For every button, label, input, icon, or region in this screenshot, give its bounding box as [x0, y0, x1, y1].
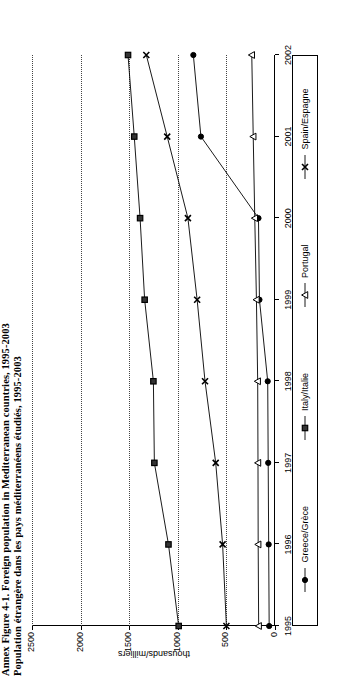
- figure-title-line-2: Population étrangère dans les pays médit…: [12, 0, 24, 676]
- figure-page: Annex Figure 4-1. Foreign population in …: [0, 0, 344, 678]
- x-tick: [275, 543, 279, 544]
- x-tick: [275, 380, 279, 381]
- legend-entry-4[interactable]: Spain/Espagne: [299, 89, 311, 180]
- data-point: [143, 52, 149, 58]
- legend-entry-2[interactable]: Italy/Italie: [299, 373, 311, 441]
- data-series-layer: [32, 55, 275, 626]
- data-point: [142, 297, 147, 302]
- legend-marker-icon: [299, 567, 311, 593]
- series-3: [248, 52, 261, 630]
- x-tick: [275, 136, 279, 137]
- data-point: [266, 460, 271, 465]
- data-point: [176, 623, 181, 628]
- x-tick: [275, 462, 279, 463]
- x-tick: [275, 54, 279, 55]
- figure-title: Annex Figure 4-1. Foreign population in …: [0, 0, 24, 678]
- figure-canvas: Annex Figure 4-1. Foreign population in …: [0, 0, 344, 678]
- plot-area: 05001000150020002500 1995199619971998199…: [32, 55, 275, 626]
- legend-label: Italy/Italie: [300, 373, 310, 411]
- series-line: [146, 55, 226, 626]
- data-point: [191, 52, 196, 57]
- y-tick: [129, 626, 130, 630]
- legend-entry-3[interactable]: Portugal: [299, 245, 311, 309]
- legend-label: Greece/Grèce: [300, 506, 310, 563]
- data-point: [265, 379, 270, 384]
- rotated-figure-wrapper: Annex Figure 4-1. Foreign population in …: [0, 0, 344, 678]
- data-point: [198, 134, 203, 139]
- legend-marker-icon: [299, 415, 311, 441]
- legend-entry-1[interactable]: Greece/Grèce: [299, 506, 311, 593]
- x-tick: [275, 625, 279, 626]
- y-tick: [275, 626, 276, 630]
- data-point: [266, 542, 271, 547]
- y-tick-label: 500: [220, 632, 230, 660]
- data-point: [166, 542, 171, 547]
- series-line: [128, 55, 179, 626]
- y-tick-label: 2500: [26, 632, 36, 660]
- data-point: [151, 379, 156, 384]
- series-2: [125, 52, 181, 628]
- y-tick: [32, 626, 33, 630]
- data-point: [164, 134, 170, 140]
- y-tick: [81, 626, 82, 630]
- chart-legend: Greece/GrèceItaly/ItaliePortugalSpain/Es…: [292, 55, 318, 626]
- legend-label: Spain/Espagne: [300, 89, 310, 150]
- figure-title-line-1: Annex Figure 4-1. Foreign population in …: [0, 0, 12, 676]
- series-line: [252, 55, 259, 626]
- data-point: [137, 215, 142, 220]
- data-point: [152, 460, 157, 465]
- y-tick-label: 2000: [75, 632, 85, 660]
- data-point: [132, 134, 137, 139]
- series-4: [143, 52, 229, 629]
- y-axis-title: thousands/milliers: [117, 649, 189, 659]
- legend-label: Portugal: [300, 245, 310, 279]
- data-point: [125, 52, 130, 57]
- data-point: [267, 623, 272, 628]
- legend-marker-icon: [299, 282, 311, 308]
- x-tick: [275, 217, 279, 218]
- x-tick: [275, 299, 279, 300]
- y-tick-label: 0: [269, 632, 279, 660]
- legend-marker-icon: [299, 154, 311, 180]
